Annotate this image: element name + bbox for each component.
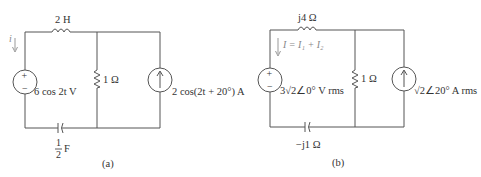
wire-bottom-left-a: [25, 94, 58, 128]
capacitor-label-unit-a: F: [64, 143, 70, 154]
capacitor-label-b: −j1 Ω: [296, 139, 321, 150]
current-label-a: i: [9, 33, 12, 44]
wire-top-right-a: [70, 32, 160, 68]
arrow-up-icon: [157, 71, 163, 88]
minus-sign-b: −: [267, 81, 273, 92]
capacitor-label-num-a: 1: [56, 137, 61, 148]
resistor-label-a: 1 Ω: [103, 74, 119, 85]
resistor-label-b: 1 Ω: [361, 73, 377, 84]
caption-a: (a): [102, 158, 114, 170]
caption-b: (b): [332, 157, 345, 169]
wire-bottom-right-b: [309, 91, 404, 127]
wire-bottom-left-b: [270, 92, 305, 127]
current-source-label-b: √2∠20° A rms: [414, 85, 477, 96]
minus-sign-a: −: [22, 83, 28, 94]
wire-bottom-right-a: [62, 92, 160, 128]
wire-top-left-a: [25, 32, 52, 70]
circuit-a: + − i 2 H 1 Ω 6 cos 2t V 2 cos(2t + 20°)…: [9, 14, 245, 170]
current-label-b: I = I₁ + I₂: [282, 39, 324, 50]
plus-sign-a: +: [22, 70, 28, 81]
arrow-up-icon: [401, 70, 407, 87]
wire-top-right-b: [316, 30, 404, 67]
voltage-source-label-a: 6 cos 2t V: [34, 86, 77, 97]
plus-sign-b: +: [267, 68, 273, 79]
voltage-source-label-b: 3√2∠0° V rms: [280, 85, 344, 96]
inductor-label-b: j4 Ω: [297, 12, 317, 23]
resistor-b-icon: [352, 30, 358, 127]
inductor-label-a: 2 H: [55, 14, 71, 25]
circuit-b: + − I = I₁ + I₂ j4 Ω 1 Ω 3√2∠0° V rms √2…: [258, 12, 477, 169]
resistor-a-icon: [94, 32, 100, 128]
capacitor-label-den-a: 2: [56, 149, 61, 160]
current-source-label-a: 2 cos(2t + 20°) A: [172, 86, 245, 98]
inductor-b-icon: [298, 27, 316, 30]
circuit-diagrams: + − i 2 H 1 Ω 6 cos 2t V 2 cos(2t + 20°)…: [0, 0, 481, 177]
inductor-a-icon: [52, 29, 70, 32]
